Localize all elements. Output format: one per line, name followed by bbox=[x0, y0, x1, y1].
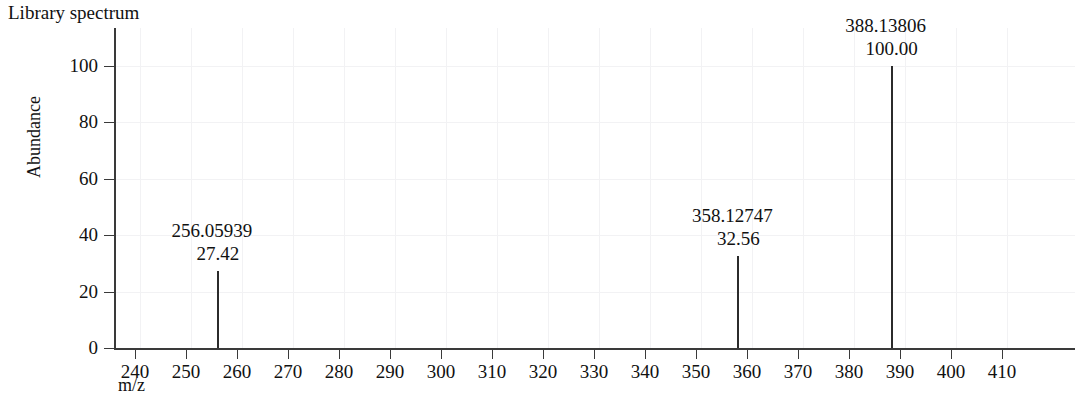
y-axis-line bbox=[114, 28, 116, 349]
y-axis-title: Abundance bbox=[25, 77, 43, 197]
peak-label: 256.0593927.42 bbox=[118, 219, 318, 265]
x-tick-mark bbox=[288, 350, 289, 359]
x-tick-mark bbox=[594, 350, 595, 359]
x-tick-mark bbox=[951, 350, 952, 359]
gridline-vertical bbox=[191, 28, 192, 348]
y-tick-label: 100 bbox=[46, 56, 98, 75]
y-tick-mark bbox=[104, 348, 115, 349]
x-tick-mark bbox=[645, 350, 646, 359]
x-tick-mark bbox=[798, 350, 799, 359]
x-tick-mark bbox=[186, 350, 187, 359]
x-tick-mark bbox=[543, 350, 544, 359]
gridline-vertical bbox=[854, 28, 855, 348]
x-tick-mark bbox=[237, 350, 238, 359]
y-tick-label: 20 bbox=[46, 282, 98, 301]
x-tick-mark bbox=[747, 350, 748, 359]
gridline-vertical bbox=[752, 28, 753, 348]
gridline-vertical bbox=[803, 28, 804, 348]
y-tick-label: 60 bbox=[46, 169, 98, 188]
x-tick-mark bbox=[696, 350, 697, 359]
peak-label: 388.13806100.00 bbox=[792, 14, 992, 60]
x-tick-mark bbox=[390, 350, 391, 359]
gridline-vertical bbox=[701, 28, 702, 348]
peak-mz-value: 358.12747 bbox=[626, 204, 838, 227]
x-tick-mark bbox=[1002, 350, 1003, 359]
peak-label: 358.1274732.56 bbox=[638, 204, 838, 250]
gridline-vertical bbox=[140, 28, 141, 348]
gridline-vertical bbox=[548, 28, 549, 348]
gridline-horizontal bbox=[114, 122, 1075, 123]
gridline-vertical bbox=[1007, 28, 1008, 348]
x-tick-mark bbox=[900, 350, 901, 359]
gridline-horizontal bbox=[114, 66, 1075, 67]
peak-mz-value: 256.05939 bbox=[106, 219, 318, 242]
gridline-vertical bbox=[599, 28, 600, 348]
peak-abundance-value: 100.00 bbox=[792, 37, 992, 60]
peak-stem bbox=[217, 271, 219, 348]
plot-area bbox=[114, 28, 1075, 348]
y-tick-label: 40 bbox=[46, 225, 98, 244]
x-tick-mark bbox=[849, 350, 850, 359]
peak-abundance-value: 32.56 bbox=[638, 227, 838, 250]
peak-stem bbox=[737, 256, 739, 348]
x-tick-mark bbox=[135, 350, 136, 359]
x-tick-mark bbox=[492, 350, 493, 359]
peak-stem bbox=[891, 66, 893, 348]
y-tick-mark bbox=[104, 292, 115, 293]
gridline-vertical bbox=[497, 28, 498, 348]
x-tick-mark bbox=[441, 350, 442, 359]
gridline-vertical bbox=[344, 28, 345, 348]
peak-mz-value: 388.13806 bbox=[780, 14, 992, 37]
y-tick-mark bbox=[104, 122, 115, 123]
gridline-vertical bbox=[395, 28, 396, 348]
gridline-vertical bbox=[446, 28, 447, 348]
y-tick-mark bbox=[104, 66, 115, 67]
gridline-horizontal bbox=[114, 179, 1075, 180]
gridline-horizontal bbox=[114, 292, 1075, 293]
page-title: Library spectrum bbox=[8, 2, 139, 24]
gridline-vertical bbox=[650, 28, 651, 348]
peak-abundance-value: 27.42 bbox=[118, 242, 318, 265]
gridline-vertical bbox=[905, 28, 906, 348]
x-axis-title: m/z bbox=[118, 375, 145, 395]
y-tick-label: 80 bbox=[46, 112, 98, 131]
x-tick-label: 410 bbox=[972, 361, 1032, 382]
gridline-vertical bbox=[242, 28, 243, 348]
gridline-vertical bbox=[956, 28, 957, 348]
y-tick-label: 0 bbox=[46, 338, 98, 357]
x-tick-mark bbox=[339, 350, 340, 359]
y-tick-mark bbox=[104, 179, 115, 180]
gridline-vertical bbox=[293, 28, 294, 348]
